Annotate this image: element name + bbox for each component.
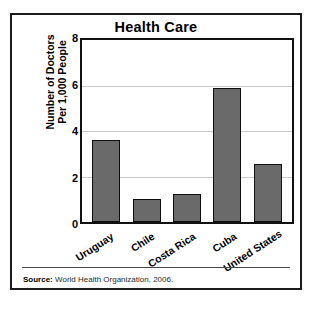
source-divider [22,267,290,268]
source-label: Source: [23,275,53,284]
bar[interactable] [133,199,161,222]
bar[interactable] [213,88,241,222]
y-axis-tick-labels: 8 6 4 2 0 [58,38,78,224]
y-tick-label: 6 [72,79,78,91]
bar-series [82,40,292,222]
bar-slot [126,40,166,222]
bar-slot [207,40,247,222]
y-tick-label: 8 [72,32,78,44]
y-tick-label: 2 [72,172,78,184]
source-note: Source: World Health Organization, 2006. [23,275,173,284]
bar-slot [86,40,126,222]
y-tick-label: 0 [72,218,78,230]
bar[interactable] [254,164,282,222]
bar[interactable] [173,194,201,222]
bar-slot [248,40,288,222]
y-tick-label: 4 [72,125,78,137]
bar[interactable] [92,140,120,222]
plot-area [80,38,294,224]
source-text: World Health Organization, 2006. [53,275,173,284]
bar-slot [167,40,207,222]
chart-card: Health Care Number of Doctors Per 1,000 … [10,13,302,290]
